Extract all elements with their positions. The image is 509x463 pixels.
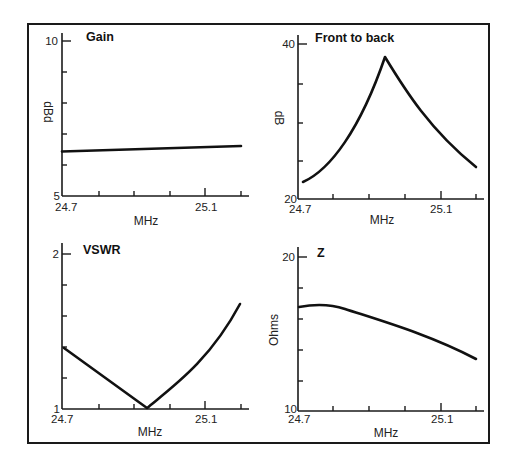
ftb-title: Front to back — [315, 31, 394, 45]
gain-x-ticks — [99, 188, 241, 196]
z-y-label: Ohms — [267, 314, 281, 346]
vswr-curve — [64, 304, 240, 408]
gain-chart: Gain 10 5 24.7 25.1 MHz dBd — [41, 30, 249, 228]
ftb-y-label: dB — [272, 111, 286, 126]
z-y-ticks — [298, 257, 307, 381]
front-to-back-chart: Front to back 40 20 24.7 25.1 MHz dB — [272, 31, 484, 227]
vswr-y-ticks — [62, 254, 71, 378]
ftb-y-max: 40 — [282, 38, 295, 50]
z-title: Z — [317, 246, 325, 260]
z-x-start: 24.7 — [288, 413, 310, 425]
ftb-x-end: 25.1 — [430, 203, 452, 215]
z-x-label: MHz — [374, 426, 399, 440]
vswr-y-max: 2 — [53, 248, 59, 260]
vswr-x-label: MHz — [138, 425, 163, 439]
ftb-x-label: MHz — [370, 213, 395, 227]
vswr-x-start: 24.7 — [51, 413, 73, 425]
ftb-curve — [303, 57, 476, 182]
z-x-end: 25.1 — [431, 413, 453, 425]
gain-x-end: 25.1 — [195, 201, 217, 213]
gain-curve — [62, 146, 241, 152]
ftb-x-start: 24.7 — [289, 203, 311, 215]
vswr-x-ticks — [99, 401, 241, 409]
gain-x-label: MHz — [134, 214, 159, 228]
vswr-chart: VSWR 2 1 24.7 25.1 MHz — [51, 243, 249, 439]
vswr-title: VSWR — [83, 243, 121, 257]
impedance-chart: Z 20 10 24.7 25.1 MHz Ohms — [267, 246, 484, 440]
gain-y-label: dBd — [41, 101, 55, 122]
z-curve — [299, 305, 476, 359]
gain-y-ticks — [62, 41, 71, 165]
gain-y-max: 10 — [45, 35, 58, 47]
gain-title: Gain — [86, 30, 114, 44]
ftb-x-ticks — [333, 191, 476, 199]
gain-x-start: 24.7 — [55, 201, 77, 213]
z-x-ticks — [333, 403, 476, 411]
ftb-y-ticks — [298, 44, 307, 161]
z-y-max: 20 — [282, 251, 295, 263]
vswr-x-end: 25.1 — [195, 413, 217, 425]
charts-canvas: Gain 10 5 24.7 25.1 MHz dBd Front to bac… — [0, 0, 509, 463]
